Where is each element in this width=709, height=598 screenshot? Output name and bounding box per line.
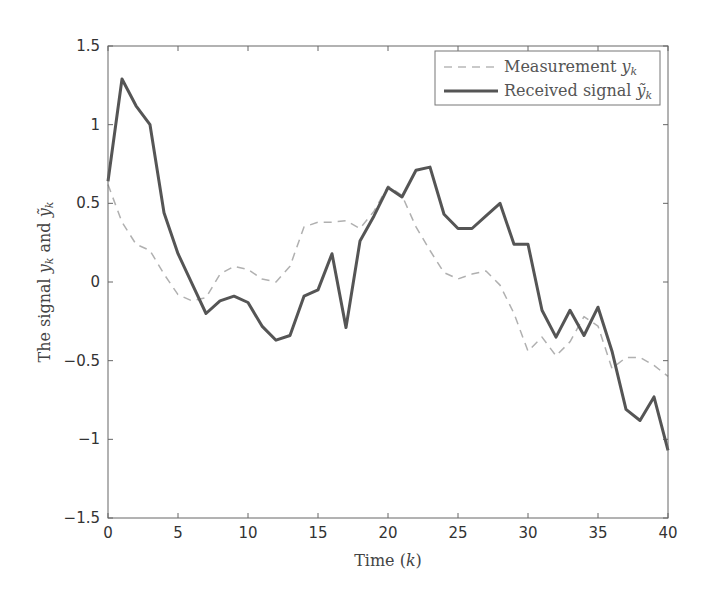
legend-measurement-label: Measurement yk — [504, 57, 638, 78]
x-tick-label: 30 — [518, 524, 537, 542]
y-tick-label: 0.5 — [76, 194, 100, 212]
y-tick-label: −1.5 — [64, 509, 100, 527]
data-lines — [108, 79, 668, 450]
x-tick-label: 10 — [238, 524, 257, 542]
y-axis-title: The signal yk and ỹk — [35, 201, 56, 362]
x-tick-label: 40 — [658, 524, 677, 542]
y-tick-label: 1.5 — [76, 37, 100, 55]
x-tick-label: 15 — [308, 524, 327, 542]
y-tick-label: 0 — [90, 273, 100, 291]
legend: Measurement yk Received signal ỹk — [435, 51, 660, 105]
x-tick-label: 20 — [378, 524, 397, 542]
x-tick-label: 25 — [448, 524, 467, 542]
y-tick-label: −0.5 — [64, 352, 100, 370]
legend-received-label: Received signal ỹk — [504, 81, 653, 102]
x-tick-label: 0 — [103, 524, 113, 542]
x-tick-label: 35 — [588, 524, 607, 542]
x-axis-title: Time (k) — [354, 551, 422, 570]
y-tick-label: 1 — [90, 116, 100, 134]
line-chart: 0510152025303540−1.5−1−0.500.511.5 Measu… — [0, 0, 709, 598]
received-signal-line — [108, 79, 668, 450]
axis-ticks: 0510152025303540−1.5−1−0.500.511.5 — [64, 37, 678, 542]
x-tick-label: 5 — [173, 524, 183, 542]
y-tick-label: −1 — [78, 430, 100, 448]
